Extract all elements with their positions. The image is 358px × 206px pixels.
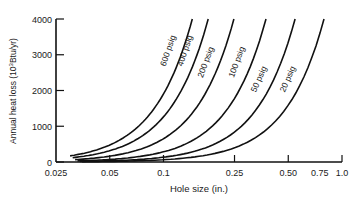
y-axis-label: Annual heat loss (103Btu/yr) [8, 38, 18, 144]
x-axis-label: Hole size (in.) [170, 183, 228, 194]
chart: 600 psig400 psig200 psig100 psig50 psig2… [0, 0, 358, 206]
x-tick-label: 0.1 [157, 168, 170, 178]
y-tick-label: 0 [47, 158, 52, 168]
x-tick-label: 0.025 [45, 168, 68, 178]
y-tick-label: 1000 [32, 122, 52, 132]
x-tick-label: 0.25 [226, 168, 244, 178]
curve-label: 20 psig [277, 64, 297, 93]
curve-labels: 600 psig400 psig200 psig100 psig50 psig2… [158, 34, 298, 94]
y-tick-label: 2000 [32, 86, 52, 96]
axes [56, 19, 342, 162]
y-tick-label: 3000 [32, 50, 52, 60]
x-tick-label: 1.0 [336, 168, 349, 178]
x-tick-label: 0.05 [101, 168, 119, 178]
curve-200-psig [75, 19, 234, 160]
x-tick-label: 0.75 [311, 168, 329, 178]
y-ticks: 01000200030004000 [32, 15, 64, 168]
curve-label: 50 psig [248, 64, 268, 93]
curve-label: 400 psig [175, 34, 195, 68]
curve-label: 100 psig [226, 45, 247, 79]
y-tick-label: 4000 [32, 15, 52, 25]
x-tick-label: 0.50 [279, 168, 297, 178]
